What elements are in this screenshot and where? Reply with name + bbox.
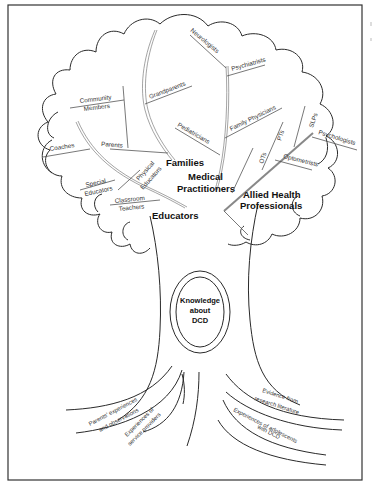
label-psychiatrists: Psychiatrists <box>230 55 266 72</box>
group-label-medical-l1: Medical <box>188 171 223 182</box>
diagram-frame <box>8 5 362 480</box>
label-classroom-teachers-l2: Teachers <box>118 202 144 212</box>
branch-families: Grandparents Community Members Parents C… <box>43 30 204 168</box>
group-label-medical-l2: Practitioners <box>177 183 235 194</box>
roots-left: Parents' experiences and observations Ex… <box>66 366 199 447</box>
core-label-line1: Knowledge <box>180 296 220 305</box>
canopy-inner-scallops <box>42 112 130 240</box>
branch-medical-practitioners: Neurologists Psychiatrists Family Physic… <box>175 26 282 194</box>
label-family-physicians: Family Physicians <box>228 104 277 133</box>
label-optometrists: Optometrists <box>283 152 320 168</box>
roots-right: Evidence from research literature Experi… <box>218 374 344 465</box>
label-coaches: Coaches <box>49 141 75 152</box>
core-label-line2: about <box>190 306 211 315</box>
label-neurologists: Neurologists <box>189 26 221 55</box>
group-label-educators: Educators <box>152 210 198 221</box>
group-label-allied-l1: Allied Health <box>243 189 301 200</box>
tree-trunk-right <box>248 204 300 405</box>
label-parents: Parents <box>101 140 123 148</box>
core-label-line3: DCD <box>192 316 209 325</box>
label-pediatricians: Pediatricians <box>177 121 212 145</box>
label-ots: OTs <box>257 151 267 164</box>
label-pts: PTs <box>275 129 285 141</box>
group-label-families: Families <box>166 157 204 168</box>
group-label-allied-l2: Professionals <box>240 200 302 211</box>
label-slps: SLPs <box>307 112 318 128</box>
label-community-members-l2: Members <box>83 102 110 112</box>
dcd-knowledge-tree-diagram: Knowledge about DCD Grandparents Communi… <box>0 0 375 483</box>
